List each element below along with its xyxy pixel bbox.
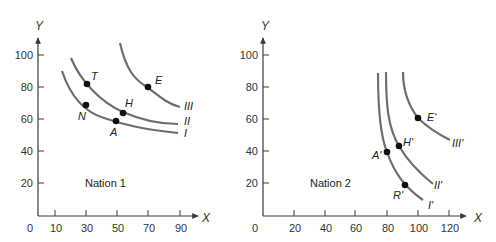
point-label-A-prime: A' [371,149,382,161]
y-tick-label: 80 [21,81,33,93]
point-R-prime [402,182,409,189]
x-tick-label: 10 [50,222,62,234]
y-tick-label: 60 [246,113,258,125]
point-label-E: E [155,74,163,86]
point-T [84,81,91,88]
y-axis-label: Y [261,19,270,33]
x-tick-label: 50 [112,222,124,234]
y-tick-label: 40 [21,145,33,157]
curve-label-III-prime: III' [452,137,464,149]
curve-label-III: III [184,100,193,112]
point-H [120,110,127,117]
point-E-prime [415,115,422,122]
indifference-curve-III-prime [403,72,450,140]
y-tick-label: 80 [246,81,258,93]
y-tick-label: 20 [21,177,33,189]
point-label-T: T [91,70,99,82]
chart-title-nation-1: Nation 1 [85,177,126,189]
point-A-prime [384,149,391,156]
chart-nation-2: Y X 100 80 60 40 20 0 20 40 60 80 10 [240,19,483,234]
x-ticks: 0 10 30 50 70 90 [27,210,187,234]
indifference-curves-figure: Y X 100 80 60 40 20 0 10 30 50 70 [0,0,496,242]
x-ticks: 0 20 40 60 80 100 120 [252,210,459,234]
point-label-N: N [78,110,86,122]
point-H-prime [396,143,403,150]
y-ticks: 100 80 60 40 20 [240,49,269,189]
y-tick-label: 100 [15,49,33,61]
point-E [145,84,152,91]
curve-label-I: I [184,127,187,139]
indifference-curve-I-prime [378,73,423,200]
x-tick-label: 0 [27,222,33,234]
point-label-E-prime: E' [427,111,437,123]
curve-label-II-prime: II' [434,179,443,191]
x-tick-label: 70 [143,222,155,234]
x-tick-label: 20 [289,222,301,234]
chart-title-nation-2: Nation 2 [310,177,351,189]
x-tick-label: 30 [81,222,93,234]
point-A [113,118,120,125]
x-tick-label: 80 [382,222,394,234]
y-tick-label: 40 [246,145,258,157]
x-tick-label: 40 [320,222,332,234]
point-N [83,102,90,109]
x-axis-label: X [473,211,483,225]
x-axis-label: X [201,211,211,225]
y-tick-label: 60 [21,113,33,125]
x-tick-label: 120 [441,222,459,234]
chart-nation-1: Y X 100 80 60 40 20 0 10 30 50 70 [15,19,211,234]
y-tick-label: 100 [240,49,258,61]
y-axis-label: Y [35,19,44,33]
y-ticks: 100 80 60 40 20 [15,49,44,189]
y-tick-label: 20 [246,177,258,189]
x-tick-label: 90 [175,222,187,234]
curve-label-I-prime: I' [428,199,434,211]
point-label-A: A [109,126,117,138]
x-tick-label: 100 [410,222,428,234]
point-label-H-prime: H' [403,136,414,148]
point-label-H: H [125,97,133,109]
point-label-R-prime: R' [393,189,404,201]
x-tick-label: 0 [252,222,258,234]
x-tick-label: 60 [350,222,362,234]
curve-label-II: II [184,115,190,127]
